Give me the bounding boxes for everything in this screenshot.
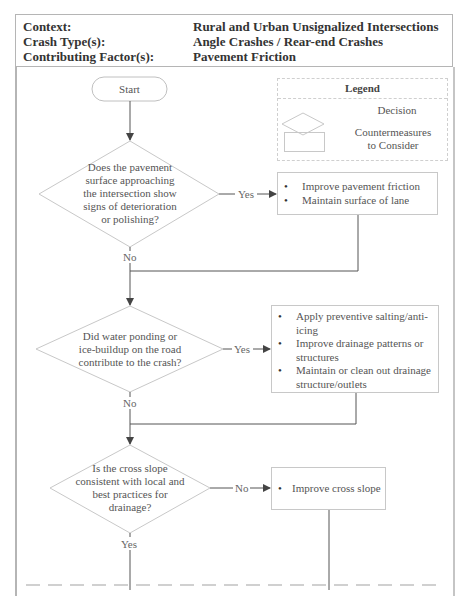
countermeasure-box-1: Improve pavement friction Maintain surfa…: [277, 172, 438, 215]
countermeasure-item: Improve drainage patterns or structures: [272, 337, 432, 364]
decision-2-yes-label: Yes: [233, 344, 251, 355]
countermeasure-item: Maintain or clean out drainage structure…: [272, 364, 432, 391]
countermeasure-item: Maintain surface of lane: [278, 194, 437, 208]
decision-1-line: signs of deterioration: [60, 200, 200, 213]
legend-countermeasure-line1: Countermeasures: [338, 126, 448, 139]
decision-2-text: Did water ponding or ice-buildup on the …: [55, 330, 205, 369]
decision-2-line: Did water ponding or: [55, 330, 205, 343]
decision-2-no-label: No: [122, 398, 137, 409]
legend-decision-label: Decision: [348, 104, 446, 116]
legend-title: Legend: [278, 79, 447, 99]
decision-2-line: ice-buildup on the road: [55, 343, 205, 356]
countermeasure-item: Improve pavement friction: [278, 180, 437, 194]
legend-rectangle-shape: [284, 132, 325, 152]
legend: Legend Decision Countermeasures to Consi…: [277, 78, 448, 161]
decision-3-line: Is the cross slope: [60, 462, 200, 475]
legend-countermeasure-label: Countermeasures to Consider: [338, 126, 448, 152]
decision-1-no-label: No: [122, 252, 137, 263]
decision-1-line: Does the pavement: [60, 161, 200, 174]
decision-3-line: consistent with local and: [60, 475, 200, 488]
countermeasure-box-3: Improve cross slope: [271, 467, 386, 510]
decision-3-yes-label: Yes: [120, 539, 138, 550]
legend-countermeasure-line2: to Consider: [338, 139, 448, 152]
decision-3-line: drainage?: [60, 501, 200, 514]
decision-3-no-label: No: [234, 483, 249, 494]
decision-1-line: the intersection show: [60, 187, 200, 200]
countermeasure-item: Apply preventive salting/anti-icing: [272, 310, 432, 337]
countermeasure-item: Improve cross slope: [272, 482, 385, 496]
decision-1-line: or polishing?: [60, 213, 200, 226]
decision-3-line: best practices for: [60, 488, 200, 501]
start-terminal-label: Start: [92, 83, 167, 96]
countermeasure-box-2: Apply preventive salting/anti-icing Impr…: [271, 305, 439, 393]
decision-3-text: Is the cross slope consistent with local…: [60, 462, 200, 514]
decision-2-line: contribute to the crash?: [55, 356, 205, 369]
decision-1-line: surface approaching: [60, 174, 200, 187]
decision-1-yes-label: Yes: [237, 189, 255, 200]
decision-1-text: Does the pavement surface approaching th…: [60, 161, 200, 226]
